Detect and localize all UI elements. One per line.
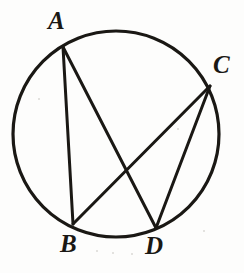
vertex-label-c: C xyxy=(213,52,230,77)
vertex-label-a: A xyxy=(48,8,65,33)
chord-AB xyxy=(63,47,73,224)
paper-speck xyxy=(177,128,179,130)
paper-speck xyxy=(112,252,114,254)
geometry-canvas xyxy=(0,0,244,273)
vertex-label-d: D xyxy=(145,233,163,258)
paper-speck xyxy=(131,253,133,255)
circle xyxy=(13,31,219,237)
paper-speck xyxy=(203,230,205,232)
chord-AD xyxy=(63,47,156,228)
chord-CD xyxy=(156,86,210,228)
geometry-figure: A C B D xyxy=(0,0,244,273)
paper-speck xyxy=(38,98,40,100)
paper-speck xyxy=(96,250,98,252)
vertex-label-b: B xyxy=(60,231,77,256)
